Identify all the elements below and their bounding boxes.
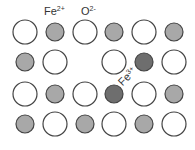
oxygen-ion: [102, 50, 126, 74]
oxygen-ion: [13, 20, 37, 44]
oxygen-ion: [132, 82, 156, 106]
label-o2-base: O: [81, 5, 90, 17]
oxygen-ion: [73, 82, 97, 106]
oxygen-ion: [13, 82, 37, 106]
lattice-diagram: [0, 0, 195, 150]
fe2-ion: [16, 115, 34, 133]
oxygen-ion: [43, 112, 67, 136]
oxygen-ion: [43, 50, 67, 74]
fe2-ion: [46, 85, 64, 103]
label-o2-charge: 2-: [90, 5, 96, 12]
fe2-ion: [76, 115, 94, 133]
fe2-ion: [46, 23, 64, 41]
fe2-ion: [16, 53, 34, 71]
label-fe2-charge: 2+: [57, 5, 65, 12]
fe3-ion: [105, 85, 123, 103]
label-fe2-base: Fe: [44, 5, 57, 17]
fe3-ion: [135, 53, 153, 71]
oxygen-ion: [132, 20, 156, 44]
label-fe2: Fe2+: [44, 6, 65, 17]
fe2-ion: [165, 85, 183, 103]
fe2-ion: [165, 23, 183, 41]
oxygen-ion: [73, 20, 97, 44]
oxygen-ion: [162, 112, 186, 136]
fe2-ion: [105, 23, 123, 41]
oxygen-ion: [102, 112, 126, 136]
fe2-ion: [135, 115, 153, 133]
label-o2: O2-: [81, 6, 96, 17]
oxygen-ion: [162, 50, 186, 74]
